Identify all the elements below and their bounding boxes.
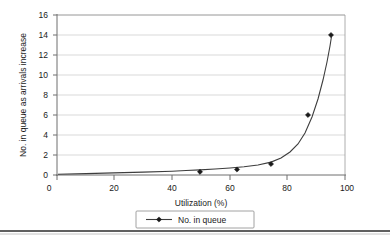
x-tick-label-60: 60: [225, 183, 235, 193]
y-tick-label-0: 0: [43, 170, 48, 180]
legend-label-no-in-queue: No. in queue: [178, 215, 226, 225]
y-tick-label-8: 8: [43, 90, 48, 100]
y-tick-label-6: 6: [43, 110, 48, 120]
y-tick-label-16: 16: [39, 10, 49, 20]
y-tick-label-4: 4: [43, 130, 48, 140]
x-tick-label-0: 0: [47, 183, 52, 193]
x-tick-label-80: 80: [282, 183, 292, 193]
y-tick-label-2: 2: [43, 150, 48, 160]
y-tick-label-14: 14: [39, 30, 49, 40]
x-tick-label-40: 40: [167, 183, 177, 193]
x-tick-label-100: 100: [340, 183, 354, 193]
x-tick-label-20: 20: [109, 183, 119, 193]
y-axis-title: No. in queue as arrivals increase: [18, 33, 28, 157]
y-tick-label-12: 12: [39, 50, 49, 60]
x-axis-title: Utilization (%): [175, 198, 228, 208]
chart-legend[interactable]: No. in queue: [136, 211, 254, 228]
y-tick-label-10: 10: [39, 70, 49, 80]
queue-utilization-line-chart: 16 14 12 10 8 6 4 2 0 0 20 40 60 80 100 …: [0, 0, 390, 240]
